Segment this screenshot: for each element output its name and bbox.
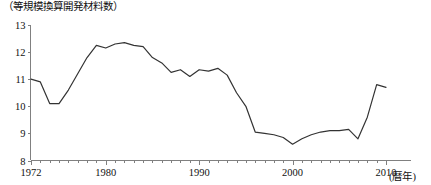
y-tick-label: 11 <box>15 74 25 85</box>
x-tick-label: 1972 <box>21 167 42 178</box>
x-tick-label: 1980 <box>95 167 116 178</box>
y-tick-label: 13 <box>15 20 26 31</box>
y-tick-label: 8 <box>20 156 25 167</box>
axes-group <box>31 25 412 161</box>
x-tick-label: 2000 <box>282 167 303 178</box>
data-series-line <box>31 43 386 145</box>
chart-container: （等規模換算開発材料数） 8910111213 1972198019902000… <box>0 0 431 185</box>
y-tick-label: 10 <box>15 101 26 112</box>
x-tick-label: 1990 <box>189 167 210 178</box>
x-ticks-group: 19721980199020002010 <box>21 161 397 178</box>
line-chart-plot: 8910111213 19721980199020002010 (暦年) <box>0 0 431 185</box>
y-ticks-group: 8910111213 <box>15 20 31 167</box>
y-tick-label: 12 <box>15 47 26 58</box>
y-tick-label: 9 <box>20 128 25 139</box>
x-axis-unit-label: (暦年) <box>389 170 416 183</box>
